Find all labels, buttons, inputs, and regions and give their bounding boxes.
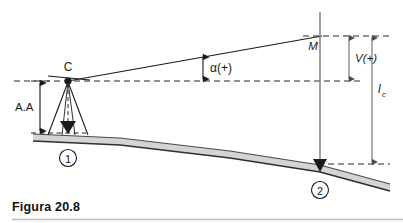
- surveying-diagram: 1 2 C A.A α(+) M V(+) l c Figura 20.8: [0, 0, 403, 223]
- instrument-tripod: [48, 76, 90, 135]
- point-c-label: C: [64, 60, 73, 74]
- vertical-distance-label: V(+): [355, 52, 377, 64]
- slope-length-label-sub: c: [382, 90, 386, 99]
- line-of-sight: [68, 36, 322, 81]
- station-2-marker: 2: [312, 182, 329, 199]
- station-1-marker: 1: [60, 150, 77, 167]
- instrument-height-label: A.A: [15, 101, 34, 113]
- figure-caption: Figura 20.8: [12, 200, 80, 214]
- station-1-label: 1: [65, 153, 71, 165]
- station-2-label: 2: [317, 185, 323, 197]
- point-c-marker: [64, 77, 71, 84]
- terrain-fill: [33, 134, 390, 191]
- terrain-profile: [33, 134, 390, 191]
- slope-length-label: l c: [378, 82, 386, 99]
- vertical-angle-label: α(+): [210, 61, 232, 75]
- slope-length-label-main: l: [378, 82, 381, 96]
- figure-container: 1 2 C A.A α(+) M V(+) l c Figura 20.8: [0, 0, 403, 223]
- point-m-label: M: [308, 40, 318, 52]
